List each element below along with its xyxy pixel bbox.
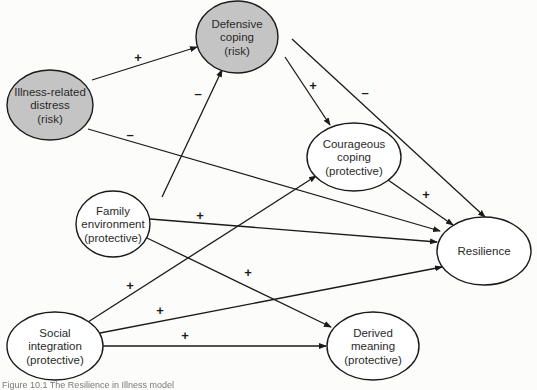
edge-family-to-meaning: [147, 238, 331, 327]
edge-distress-to-defensive: [92, 47, 197, 80]
edge-sign-defensive-to-courageous: +: [309, 78, 317, 93]
node-resilience-label-line: Resilience: [457, 245, 510, 257]
edge-sign-distress-to-defensive: +: [134, 50, 142, 65]
node-defensive-label-line: (risk): [224, 45, 250, 57]
figure-caption: Figure 10.1 The Resilience in Illness mo…: [2, 380, 174, 390]
node-meaning-label-line: meaning: [351, 340, 395, 352]
node-social-label-line: integration: [28, 340, 82, 352]
edge-sign-family-to-meaning: +: [244, 265, 252, 280]
resilience-model-diagram: Defensivecoping(risk)Illness-relateddist…: [0, 0, 537, 390]
node-defensive: Defensivecoping(risk): [196, 1, 278, 73]
node-distress-label-line: (risk): [37, 113, 63, 125]
node-family-label-line: environment: [81, 218, 145, 230]
edge-sign-family-to-resilience: +: [196, 208, 204, 223]
diagram-canvas: Defensivecoping(risk)Illness-relateddist…: [0, 0, 537, 390]
node-social-label-line: (protective): [26, 354, 84, 366]
node-family: Familyenvironment(protective): [76, 191, 150, 257]
edge-sign-courageous-to-resilience: +: [422, 187, 430, 202]
edge-family-to-defensive: [162, 70, 222, 197]
node-courageous-label-line: (protective): [325, 165, 383, 177]
node-family-label-line: (protective): [84, 232, 142, 244]
edge-sign-social-to-meaning: +: [181, 328, 189, 343]
node-distress-label-line: distress: [30, 99, 70, 111]
node-meaning-label-line: (protective): [344, 354, 402, 366]
node-meaning: Derivedmeaning(protective): [327, 312, 419, 380]
edge-defensive-to-resilience: [292, 39, 485, 217]
edge-sign-social-to-resilience: +: [156, 303, 164, 318]
node-courageous-label-line: Courageous: [323, 138, 386, 150]
node-family-label-line: Family: [96, 205, 130, 217]
edge-sign-distress-to-resilience: –: [126, 127, 133, 142]
node-social: Socialintegration(protective): [7, 312, 103, 380]
node-courageous-label-line: coping: [337, 151, 371, 163]
edge-sign-defensive-to-resilience: –: [361, 85, 368, 100]
node-defensive-label-line: coping: [220, 31, 254, 43]
edge-sign-family-to-defensive: –: [194, 86, 201, 101]
node-distress: Illness-relateddistress(risk): [7, 70, 93, 140]
nodes-layer: Defensivecoping(risk)Illness-relateddist…: [7, 1, 531, 380]
node-courageous: Courageouscoping(protective): [307, 123, 401, 191]
edge-family-to-resilience: [150, 219, 437, 242]
node-distress-label-line: Illness-related: [14, 86, 86, 98]
node-defensive-label-line: Defensive: [211, 18, 262, 30]
edge-sign-social-to-courageous: +: [126, 278, 134, 293]
node-meaning-label-line: Derived: [353, 327, 393, 339]
node-social-label-line: Social: [39, 327, 70, 339]
node-resilience: Resilience: [437, 217, 531, 285]
